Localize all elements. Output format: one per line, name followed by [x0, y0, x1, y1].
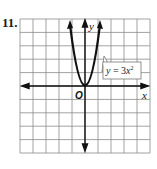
x-axis-label: x: [141, 89, 147, 101]
svg-text:y = 3x2: y = 3x2: [105, 65, 134, 76]
y-axis-label: y: [88, 20, 94, 32]
origin-label: O: [75, 90, 83, 101]
graph: y x O y = 3x2: [0, 0, 157, 169]
